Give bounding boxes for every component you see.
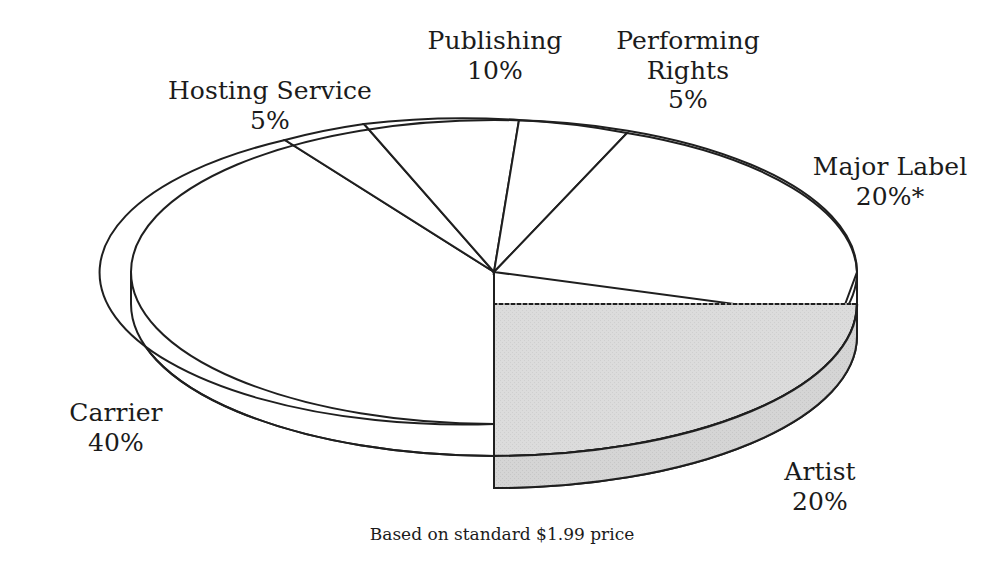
label-major-label: Major Label 20%*	[790, 152, 990, 211]
label-artist: Artist 20%	[740, 457, 900, 516]
label-publishing: Publishing 10%	[400, 26, 590, 85]
label-artist-name: Artist	[740, 457, 900, 487]
label-performing-rights: Performing Rights 5%	[588, 26, 788, 115]
label-performing-rights-name-line2: Rights	[588, 56, 788, 86]
label-artist-pct: 20%	[740, 487, 900, 517]
chart-footnote: Based on standard $1.99 price	[0, 524, 1004, 544]
label-performing-rights-name-line1: Performing	[588, 26, 788, 56]
label-publishing-pct: 10%	[400, 56, 590, 86]
label-major-label-name: Major Label	[790, 152, 990, 182]
pie-chart-figure: Hosting Service 5% Publishing 10% Perfor…	[0, 0, 1004, 584]
label-carrier: Carrier 40%	[36, 398, 196, 457]
label-publishing-name: Publishing	[400, 26, 590, 56]
label-hosting-service: Hosting Service 5%	[150, 76, 390, 135]
pie-body	[100, 118, 857, 488]
label-hosting-service-pct: 5%	[150, 106, 390, 136]
label-performing-rights-pct: 5%	[588, 85, 788, 115]
label-carrier-name: Carrier	[36, 398, 196, 428]
slice-artist-top-face	[494, 304, 857, 456]
label-major-label-pct: 20%*	[790, 182, 990, 212]
label-carrier-pct: 40%	[36, 428, 196, 458]
label-hosting-service-name: Hosting Service	[150, 76, 390, 106]
